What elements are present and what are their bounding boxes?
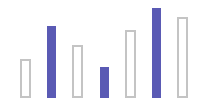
bar-5-outline bbox=[125, 30, 136, 98]
bar-2-filled bbox=[47, 26, 56, 98]
bar-1-outline bbox=[20, 59, 31, 98]
bar-7-outline bbox=[177, 17, 188, 98]
bar-chart bbox=[0, 0, 204, 107]
bar-6-filled bbox=[152, 8, 161, 98]
bar-4-filled bbox=[100, 67, 109, 98]
bar-3-outline bbox=[72, 45, 83, 98]
